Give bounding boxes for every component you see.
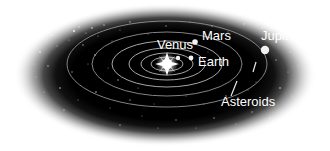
planet-venus bbox=[176, 56, 180, 60]
planet-jupiter bbox=[261, 46, 269, 54]
planet-earth bbox=[189, 56, 194, 61]
diagram-canvas: Venus Mars Earth Jupiter Asteroids bbox=[0, 0, 330, 151]
label-earth: Earth bbox=[198, 54, 229, 69]
label-asteroids: Asteroids bbox=[221, 94, 276, 109]
label-venus: Venus bbox=[157, 37, 194, 52]
solar-system-diagram: Venus Mars Earth Jupiter Asteroids bbox=[0, 0, 330, 151]
label-mars: Mars bbox=[202, 28, 231, 43]
